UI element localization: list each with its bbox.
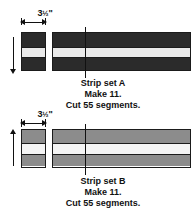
strip-segment-b-band-middle xyxy=(22,143,45,154)
cut-leader-line-b xyxy=(85,124,86,175)
strip-set-a-band-middle xyxy=(53,47,190,57)
caption-strip-set-b: Strip set B Make 11. Cut 55 segments. xyxy=(48,176,158,209)
dimension-arrow-width-b xyxy=(20,120,47,127)
strip-segment-a xyxy=(21,32,46,71)
dimension-arrow-width-a xyxy=(20,19,47,26)
arrow-head-left xyxy=(20,19,25,25)
strip-set-b-bar xyxy=(52,129,191,168)
diagram-canvas: 3½" Strip xyxy=(0,0,195,217)
strip-segment-a-band-top xyxy=(22,33,45,47)
arrow-head-bottom xyxy=(10,69,16,74)
caption-a-line-1: Strip set A xyxy=(48,78,158,89)
cut-leader-line-a xyxy=(85,27,86,78)
arrow-head-right xyxy=(42,120,47,126)
caption-b-line-2: Make 11. xyxy=(48,187,158,198)
dimension-label-b: 3½" xyxy=(22,109,68,120)
arrow-head-top xyxy=(10,129,16,134)
strip-set-b-band-bottom xyxy=(53,154,190,166)
arrow-head-right xyxy=(42,19,47,25)
strip-segment-a-band-bottom xyxy=(22,57,45,70)
strip-set-b-band-middle xyxy=(53,143,190,154)
figure-strip-set-a: 3½" Strip xyxy=(0,0,195,108)
dimension-unit-a: " xyxy=(48,8,52,18)
caption-a-line-2: Make 11. xyxy=(48,89,158,100)
dimension-unit-b: " xyxy=(48,109,52,119)
dimension-arrow-length-a xyxy=(10,34,17,74)
arrow-shaft xyxy=(23,123,44,124)
strip-segment-b xyxy=(21,129,46,168)
strip-set-a-bar xyxy=(52,32,191,71)
strip-segment-a-band-middle xyxy=(22,47,45,57)
strip-set-a-band-bottom xyxy=(53,57,190,70)
dimension-arrow-length-b xyxy=(10,129,17,169)
caption-b-line-1: Strip set B xyxy=(48,176,158,187)
strip-set-b-band-top xyxy=(53,130,190,143)
strip-set-a-band-top xyxy=(53,33,190,47)
arrow-shaft xyxy=(23,22,44,23)
strip-segment-b-band-bottom xyxy=(22,154,45,166)
dimension-label-a: 3½" xyxy=(22,8,68,19)
strip-segment-b-band-top xyxy=(22,130,45,143)
figure-strip-set-b: 3½" Strip xyxy=(0,104,195,217)
arrow-shaft xyxy=(13,37,14,71)
caption-b-line-3: Cut 55 segments. xyxy=(48,198,158,209)
arrow-head-left xyxy=(20,120,25,126)
arrow-shaft xyxy=(13,132,14,166)
